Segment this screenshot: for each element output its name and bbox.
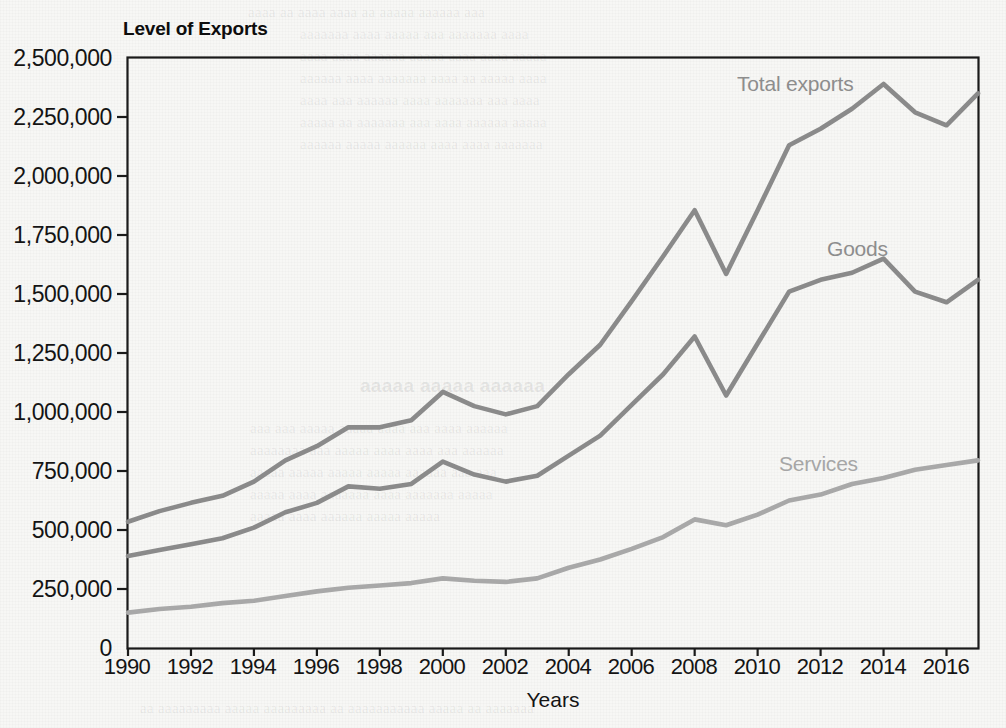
plot-area — [0, 0, 1006, 728]
plot-frame — [128, 58, 979, 649]
y-axis-ticks — [117, 117, 128, 589]
series-line-goods — [128, 259, 978, 556]
series-line-total-exports — [128, 84, 978, 522]
chart-page: aaaa aa aaaa aaaa aa aaaaa aaaaaa aaa aa… — [0, 0, 1006, 728]
